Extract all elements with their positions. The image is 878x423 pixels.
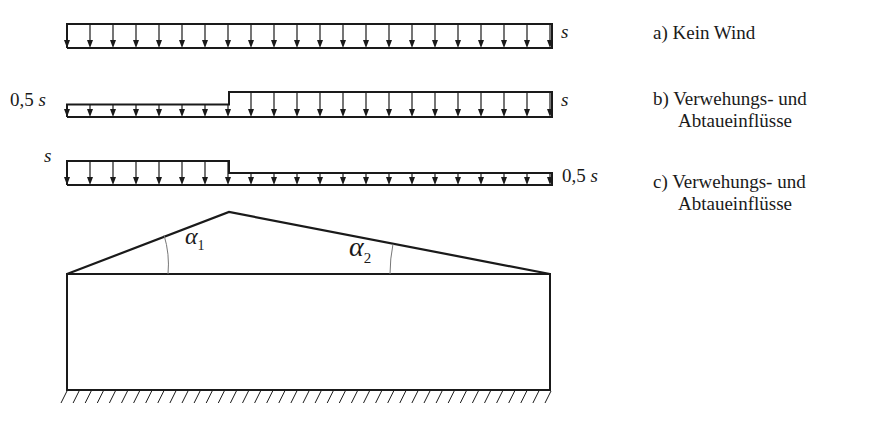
load-label-c-right: 0,5 s <box>562 166 598 186</box>
roof-outline <box>67 212 550 274</box>
arrow-head-icon <box>110 40 116 48</box>
hatch-line <box>412 391 418 403</box>
arrow-head-icon <box>133 177 139 185</box>
arrow-head-icon <box>386 40 392 48</box>
arrow-head-icon <box>317 40 323 48</box>
load-block-a <box>67 24 552 48</box>
arrow-head-icon <box>64 177 70 185</box>
hatch-line <box>182 391 188 403</box>
arrow-head-icon <box>363 109 369 117</box>
arrow-head-icon <box>524 109 530 117</box>
load-label-c-left: s <box>44 146 51 166</box>
hatch-line <box>364 391 370 403</box>
hatch-line <box>497 391 503 403</box>
arrow-head-icon <box>64 40 70 48</box>
arrow-head-icon <box>271 109 277 117</box>
hatch-line <box>376 391 382 403</box>
arrow-head-icon <box>455 109 461 117</box>
arrow-head-icon <box>432 40 438 48</box>
arrow-head-icon <box>432 177 438 185</box>
arrow-head-icon <box>202 40 208 48</box>
arrow-head-icon <box>156 177 162 185</box>
hatch-line <box>533 391 539 403</box>
angle-arc-right <box>390 244 393 274</box>
angle-label-alpha1: α1 <box>185 226 205 256</box>
arrow-head-icon <box>386 177 392 185</box>
arrow-head-icon <box>225 109 231 117</box>
hatch-line <box>61 391 67 403</box>
arrow-head-icon <box>87 177 93 185</box>
arrow-head-icon <box>179 109 185 117</box>
arrow-head-icon <box>524 40 530 48</box>
hatch-line <box>255 391 261 403</box>
arrow-head-icon <box>110 109 116 117</box>
angle-label-alpha2: α2 <box>349 237 371 268</box>
arrow-head-icon <box>271 40 277 48</box>
arrow-head-icon <box>133 109 139 117</box>
hatch-line <box>315 391 321 403</box>
arrow-head-icon <box>524 177 530 185</box>
hatch-line <box>170 391 176 403</box>
hatch-line <box>509 391 515 403</box>
arrow-head-icon <box>363 40 369 48</box>
hatch-line <box>485 391 491 403</box>
hatch-line <box>303 391 309 403</box>
building <box>61 212 551 403</box>
arrow-head-icon <box>225 40 231 48</box>
hatch-line <box>436 391 442 403</box>
hatch-line <box>351 391 357 403</box>
legend-c-line1: c) Verwehungs- und <box>653 171 806 193</box>
arrow-head-icon <box>179 177 185 185</box>
hatch-line <box>460 391 466 403</box>
arrow-head-icon <box>133 40 139 48</box>
hatch-line <box>243 391 249 403</box>
hatch-line <box>545 391 551 403</box>
arrow-head-icon <box>64 109 70 117</box>
hatch-line <box>521 391 527 403</box>
legend-a: a) Kein Wind <box>653 22 755 44</box>
hatch-line <box>109 391 115 403</box>
arrow-head-icon <box>478 40 484 48</box>
arrow-head-icon <box>110 177 116 185</box>
hatch-line <box>230 391 236 403</box>
hatch-line <box>424 391 430 403</box>
hatch-line <box>388 391 394 403</box>
arrow-head-icon <box>271 177 277 185</box>
angle-arc-left <box>164 235 168 274</box>
arrow-head-icon <box>317 109 323 117</box>
hatch-line <box>206 391 212 403</box>
hatch-line <box>218 391 224 403</box>
hatch-line <box>267 391 273 403</box>
hatch-line <box>97 391 103 403</box>
arrow-head-icon <box>455 40 461 48</box>
arrow-head-icon <box>478 109 484 117</box>
arrow-head-icon <box>87 109 93 117</box>
legend-c-line2: Abtaueinflüsse <box>678 193 792 215</box>
arrow-head-icon <box>156 109 162 117</box>
arrow-head-icon <box>409 40 415 48</box>
arrow-head-icon <box>340 109 346 117</box>
arrow-head-icon <box>294 177 300 185</box>
hatch-line <box>448 391 454 403</box>
load-block-b <box>67 92 552 117</box>
load-label-a-right: s <box>561 22 568 42</box>
hatch-line <box>158 391 164 403</box>
hatch-line <box>279 391 285 403</box>
hatch-line <box>85 391 91 403</box>
arrow-head-icon <box>248 40 254 48</box>
arrow-head-icon <box>478 177 484 185</box>
arrow-head-icon <box>202 177 208 185</box>
hatch-line <box>291 391 297 403</box>
hatch-line <box>339 391 345 403</box>
arrow-head-icon <box>455 177 461 185</box>
hatch-line <box>194 391 200 403</box>
arrow-head-icon <box>202 109 208 117</box>
arrow-head-icon <box>248 109 254 117</box>
arrow-head-icon <box>501 40 507 48</box>
ground-hatching <box>61 391 551 403</box>
arrow-head-icon <box>225 177 231 185</box>
arrow-head-icon <box>386 109 392 117</box>
hatch-line <box>73 391 79 403</box>
arrow-head-icon <box>409 109 415 117</box>
arrow-head-icon <box>179 40 185 48</box>
